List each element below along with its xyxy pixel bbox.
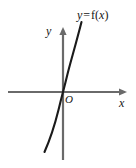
function-equation-label: y=f(x) — [77, 9, 108, 21]
function-graph-figure: y x O y=f(x) — [0, 0, 136, 168]
x-axis-label: x — [119, 97, 124, 109]
x-axis-arrowhead-icon — [119, 88, 127, 95]
graph-canvas — [0, 0, 136, 168]
function-label-equals: = — [82, 8, 91, 22]
function-label-close-paren: ) — [104, 8, 108, 22]
y-axis-label: y — [46, 25, 51, 37]
y-axis-arrowhead-icon — [59, 27, 66, 35]
origin-label: O — [65, 94, 73, 105]
